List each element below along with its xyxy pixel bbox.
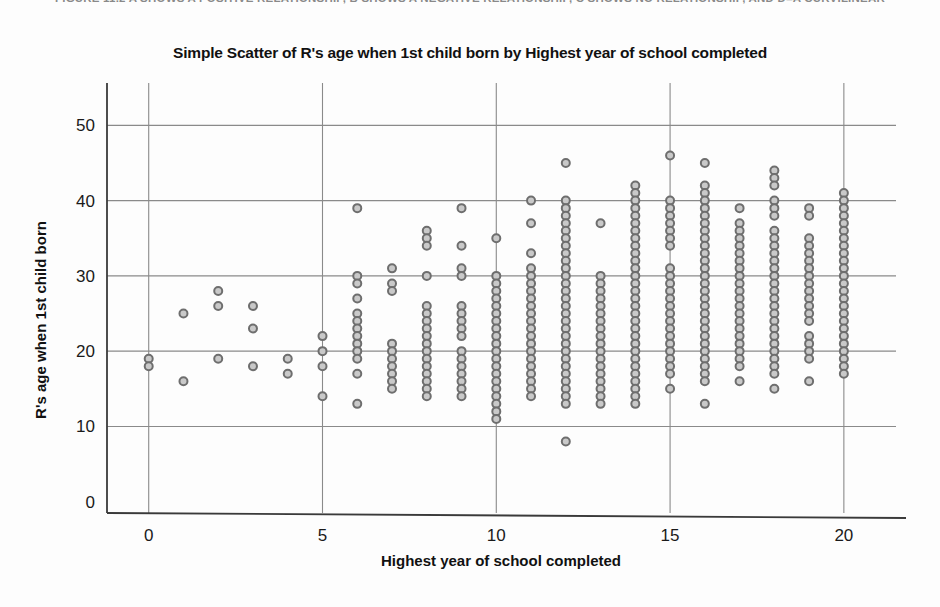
data-point: [319, 347, 327, 355]
data-point: [458, 332, 466, 340]
data-point: [840, 370, 848, 378]
data-point: [527, 249, 535, 257]
data-point: [770, 212, 778, 220]
data-point: [249, 302, 257, 310]
data-point: [527, 197, 535, 205]
data-point: [388, 264, 396, 272]
x-tick-label: 15: [661, 526, 680, 545]
y-tick-label: 10: [76, 417, 95, 436]
plot-frame: [107, 83, 906, 518]
data-point: [805, 377, 813, 385]
data-point: [423, 272, 431, 280]
data-point: [492, 234, 500, 242]
data-point: [666, 151, 674, 159]
data-point: [353, 370, 361, 378]
x-axis-title: Highest year of school completed: [381, 552, 621, 569]
data-point: [770, 182, 778, 190]
y-tick-label: 20: [76, 342, 95, 361]
data-point: [284, 370, 292, 378]
data-point: [353, 204, 361, 212]
data-point: [353, 400, 361, 408]
x-tick-label: 20: [834, 526, 853, 545]
data-point: [353, 355, 361, 363]
data-point: [145, 362, 153, 370]
data-point: [388, 385, 396, 393]
y-tick-label: 50: [76, 116, 95, 135]
data-point: [701, 400, 709, 408]
data-point: [249, 325, 257, 333]
data-point: [284, 355, 292, 363]
x-tick-label: 10: [487, 526, 506, 545]
data-point: [458, 242, 466, 250]
data-point: [805, 317, 813, 325]
data-point: [805, 355, 813, 363]
data-point: [458, 392, 466, 400]
x-axis-tick-labels: 05101520: [144, 526, 853, 545]
data-point: [458, 204, 466, 212]
y-axis-tick-labels: 01020304050: [76, 116, 95, 511]
data-point: [388, 287, 396, 295]
data-point: [562, 437, 570, 445]
data-point: [701, 159, 709, 167]
data-point: [319, 362, 327, 370]
data-point: [527, 219, 535, 227]
data-point: [249, 362, 257, 370]
data-point: [458, 272, 466, 280]
y-tick-label: 30: [76, 267, 95, 286]
data-point: [492, 415, 500, 423]
y-tick-label: 40: [76, 192, 95, 211]
data-point: [179, 377, 187, 385]
x-tick-label: 0: [144, 526, 153, 545]
data-point: [666, 242, 674, 250]
data-point: [423, 392, 431, 400]
data-point: [770, 385, 778, 393]
data-point: [319, 332, 327, 340]
y-tick-label: 0: [86, 493, 95, 512]
data-point: [214, 302, 222, 310]
data-point: [353, 279, 361, 287]
x-tick-label: 5: [318, 526, 327, 545]
data-point: [423, 242, 431, 250]
y-axis-title: R's age when 1st child born: [32, 221, 49, 419]
x-axis-spine: [107, 513, 906, 518]
data-point: [597, 400, 605, 408]
data-point: [701, 377, 709, 385]
data-point: [353, 294, 361, 302]
data-point: [666, 385, 674, 393]
data-point: [319, 392, 327, 400]
data-point: [736, 204, 744, 212]
data-point: [736, 377, 744, 385]
data-point: [736, 362, 744, 370]
data-point: [597, 219, 605, 227]
data-point: [666, 370, 674, 378]
data-point: [214, 355, 222, 363]
data-point: [179, 310, 187, 318]
figure-page: FIGURE 11.2 A SHOWS A POSITIVE RELATIONS…: [0, 0, 940, 607]
data-point: [214, 287, 222, 295]
data-point: [527, 392, 535, 400]
scatter-plot: 05101520 01020304050 Highest year of sch…: [0, 0, 940, 607]
data-point: [562, 159, 570, 167]
data-point: [562, 400, 570, 408]
data-point: [631, 400, 639, 408]
data-point: [770, 370, 778, 378]
data-point: [805, 212, 813, 220]
